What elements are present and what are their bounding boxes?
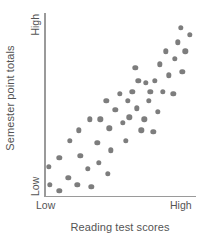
- data-point: [180, 69, 185, 74]
- data-point: [170, 91, 175, 96]
- data-point: [56, 155, 61, 160]
- data-point: [172, 56, 177, 61]
- y-axis-tick-low: Low: [28, 162, 42, 196]
- data-point: [113, 107, 118, 112]
- data-point: [142, 116, 147, 121]
- data-point: [85, 166, 90, 171]
- data-point: [78, 153, 83, 158]
- data-point: [104, 98, 109, 103]
- data-point: [125, 98, 130, 103]
- plot-area: [44, 13, 196, 196]
- data-point: [157, 62, 162, 67]
- data-point: [178, 25, 183, 30]
- data-point: [143, 80, 148, 85]
- data-point: [66, 175, 71, 180]
- data-point: [117, 91, 122, 96]
- data-point: [155, 109, 160, 114]
- data-point: [187, 32, 192, 37]
- data-point: [123, 138, 128, 143]
- data-point: [88, 184, 93, 189]
- x-axis-tick-high: High: [170, 199, 192, 211]
- data-point: [98, 116, 103, 121]
- data-point: [152, 78, 157, 83]
- data-point: [96, 160, 101, 165]
- data-point: [56, 188, 61, 193]
- data-point: [47, 182, 52, 187]
- y-axis-tick-high: High: [28, 14, 42, 50]
- data-point: [87, 116, 92, 121]
- data-point: [166, 73, 171, 78]
- data-point: [134, 105, 139, 110]
- data-point: [126, 115, 131, 120]
- data-point: [175, 40, 180, 45]
- data-point: [46, 164, 51, 169]
- data-point: [146, 98, 151, 103]
- data-point: [105, 171, 110, 176]
- data-point: [136, 78, 141, 83]
- x-axis-tick-low: Low: [36, 199, 55, 211]
- data-point: [139, 127, 144, 132]
- data-point: [67, 138, 72, 143]
- data-point: [160, 89, 165, 94]
- data-point: [183, 49, 188, 54]
- data-point: [94, 140, 99, 145]
- data-point: [151, 129, 156, 134]
- data-point: [163, 49, 168, 54]
- data-point: [148, 89, 153, 94]
- scatter-plot-figure: Semester point totals High Low Low High …: [0, 0, 210, 242]
- data-point: [132, 65, 137, 70]
- x-axis-title: Reading test scores: [44, 221, 196, 233]
- data-point: [107, 126, 112, 131]
- data-point: [108, 148, 113, 153]
- data-point: [129, 89, 134, 94]
- data-point: [120, 120, 125, 125]
- data-point: [76, 127, 81, 132]
- y-axis-title: Semester point totals: [0, 0, 20, 196]
- data-point: [75, 182, 80, 187]
